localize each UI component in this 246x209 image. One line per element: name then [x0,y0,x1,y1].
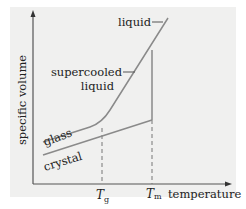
tm-label: Tm [146,187,162,201]
x-axis-label: temperature [168,187,241,201]
glass-label: glass [41,125,74,148]
y-axis-arrow-icon [31,10,36,17]
volume-temperature-diagram: specific volume temperature liquid super… [0,0,246,209]
supercooled-liquid-label: liquid [81,79,115,93]
liquid-label: liquid [118,15,152,29]
x-axis-arrow-icon [225,182,232,187]
y-axis-label: specific volume [15,55,29,145]
tg-label: Tg [96,188,109,204]
supercooled-label: supercooled [51,65,123,79]
